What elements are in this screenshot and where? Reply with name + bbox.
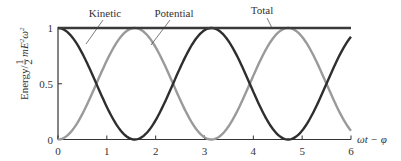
y-axis-frac-den: 2	[22, 59, 34, 65]
kinetic-leader-line	[86, 20, 103, 44]
x-tick-label: 3	[202, 145, 208, 157]
x-tick-label: 1	[104, 145, 110, 157]
x-tick-label: 0	[55, 145, 61, 157]
total-label: Total	[251, 4, 273, 16]
y-tick-label: 1	[48, 22, 54, 34]
potential-leader-line	[151, 20, 170, 45]
y-tick-label: 0	[48, 134, 54, 146]
x-tick-label: 4	[251, 145, 257, 157]
potential-label: Potential	[154, 7, 193, 19]
y-axis-sup2: 2	[18, 27, 26, 31]
energy-chart: 0123456 00.51 Kinetic Potential Total ωt…	[0, 0, 401, 161]
kinetic-label: Kinetic	[89, 7, 121, 19]
svg-text:mE2ω2: mE2ω2	[18, 27, 30, 57]
y-axis-label: Energy/ 1 2 mE2ω2	[13, 27, 34, 100]
x-tick-label: 2	[153, 145, 159, 157]
x-tick-label: 5	[299, 145, 305, 157]
svg-text:Energy/: Energy/	[18, 64, 30, 100]
y-axis-label-mE: mE	[18, 42, 30, 57]
y-axis-label-prefix: Energy/	[18, 64, 30, 100]
total-leader-line	[267, 18, 272, 28]
y-tick-label: 0.5	[39, 78, 53, 90]
x-tick-label: 6	[348, 145, 354, 157]
x-axis-label: ωt − φ	[357, 133, 387, 145]
